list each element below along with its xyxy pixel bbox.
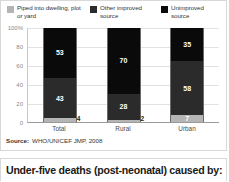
stacked-bar-total[interactable]: 53 43 4 [43, 28, 77, 122]
x-label-urban: Urban [155, 125, 219, 133]
legend-label-piped: Piped into dwelling, plot or yard [17, 4, 85, 19]
source-label: Source: [6, 137, 29, 144]
plot-area: 53 43 4 70 [27, 28, 219, 123]
bar-value-rural-piped: 2 [141, 115, 145, 122]
bar-group: 53 43 4 70 [28, 28, 219, 122]
bar-value-urban-other: 58 [183, 85, 191, 92]
bar-value-urban-unimproved: 35 [183, 41, 191, 48]
bar-value-urban-piped: 7 [185, 115, 189, 122]
y-tick-0: 0 [20, 120, 23, 126]
chart-legend: Piped into dwelling, plot or yard Other … [7, 4, 225, 26]
under-five-deaths-heading-panel: Under-five deaths (post-neonatal) caused… [0, 158, 227, 181]
legend-swatch-icon-other-improved [90, 6, 97, 13]
x-label-rural: Rural [91, 125, 155, 133]
bar-value-total-piped: 4 [77, 115, 81, 122]
y-tick-100: 100% [8, 25, 23, 31]
y-tick-60: 60 [16, 63, 23, 69]
drinking-water-chart-panel: Piped into dwelling, plot or yard Other … [0, 0, 227, 151]
chart-plot-wrapper: 100% 80 60 40 20 0 53 [1, 28, 228, 131]
stacked-bar-rural[interactable]: 70 28 2 [107, 28, 141, 122]
bar-segment-total-other[interactable]: 43 [44, 78, 76, 118]
section-heading: Under-five deaths (post-neonatal) caused… [1, 164, 222, 176]
legend-swatch-icon-unimproved [161, 6, 168, 13]
x-axis-labels: Total Rural Urban [27, 125, 219, 133]
bar-slot-rural: 70 28 2 [92, 28, 156, 122]
bar-segment-urban-unimproved[interactable]: 35 [171, 28, 203, 61]
bar-value-rural-unimproved: 70 [120, 57, 128, 64]
legend-label-other-improved: Other improved source [100, 4, 156, 19]
y-tick-20: 20 [16, 101, 23, 107]
y-tick-80: 80 [16, 44, 23, 50]
bar-segment-rural-unimproved[interactable]: 70 [108, 28, 140, 94]
bar-value-total-other: 43 [56, 95, 64, 102]
bar-segment-rural-other[interactable]: 28 [108, 94, 140, 120]
legend-item-piped: Piped into dwelling, plot or yard [7, 4, 85, 19]
y-axis: 100% 80 60 40 20 0 [1, 28, 25, 123]
y-tick-40: 40 [16, 82, 23, 88]
source-value: WHO/UNICEF JMP, 2008 [32, 137, 102, 144]
bar-segment-total-piped[interactable]: 4 [44, 118, 76, 122]
bar-segment-urban-other[interactable]: 58 [171, 61, 203, 116]
bar-value-rural-other: 28 [120, 103, 128, 110]
legend-item-unimproved: Unimproved source [161, 4, 223, 19]
legend-swatch-icon-piped [7, 6, 14, 13]
legend-item-other-improved: Other improved source [90, 4, 156, 19]
bar-value-total-unimproved: 53 [56, 49, 64, 56]
legend-label-unimproved: Unimproved source [171, 4, 223, 19]
bar-slot-urban: 35 58 7 [155, 28, 219, 122]
x-label-total: Total [27, 125, 91, 133]
bar-slot-total: 53 43 4 [28, 28, 92, 122]
chart-source: Source:WHO/UNICEF JMP, 2008 [6, 137, 102, 145]
stacked-bar-urban[interactable]: 35 58 7 [170, 28, 204, 122]
bar-segment-total-unimproved[interactable]: 53 [44, 28, 76, 78]
bar-segment-urban-piped[interactable]: 7 [171, 115, 203, 122]
bar-segment-rural-piped[interactable]: 2 [108, 120, 140, 122]
